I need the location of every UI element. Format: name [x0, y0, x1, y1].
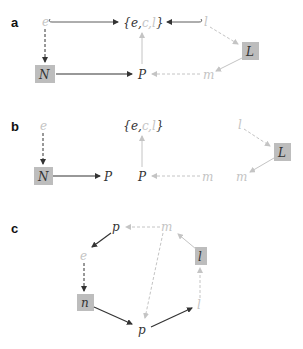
- edge-l-to-L: [244, 129, 270, 146]
- node-m: m: [161, 220, 172, 234]
- edge-p-top-to-e: [92, 233, 111, 247]
- panel-label-b: b: [11, 119, 19, 134]
- panel-c: c p m e n p l l: [11, 220, 207, 337]
- panel-a: a e { e , c , l } l L m P: [11, 15, 259, 83]
- node-n: n: [81, 296, 89, 310]
- edge-p-bottom-to-l: [151, 308, 192, 327]
- node-P: P: [137, 68, 147, 82]
- edge-m-to-p-bottom: [145, 233, 163, 318]
- diagram-canvas: a e { e , c , l } l L m P: [0, 0, 303, 349]
- node-L: L: [245, 45, 254, 59]
- node-P-mid: P: [137, 170, 147, 184]
- set-close-brace: }: [156, 16, 164, 30]
- edge-l-to-L: [210, 27, 238, 44]
- set-open-brace: {: [123, 16, 131, 30]
- node-e: e: [80, 249, 87, 263]
- node-l: l: [238, 118, 242, 132]
- node-m: m: [203, 68, 214, 82]
- node-m-right: m: [236, 170, 247, 184]
- node-l-boxed: l: [198, 250, 202, 264]
- node-e: e: [40, 119, 47, 133]
- panel-label-a: a: [11, 15, 19, 30]
- node-P-left: P: [103, 170, 113, 184]
- set-open-brace: {: [123, 119, 131, 133]
- edge-l-to-set: [167, 19, 202, 22]
- node-set: { e , c , l }: [123, 119, 164, 133]
- node-p-top: p: [112, 220, 120, 234]
- node-e: e: [42, 15, 49, 29]
- panel-label-c: c: [11, 221, 18, 236]
- edge-l-box-to-m: [178, 234, 196, 249]
- edge-L-to-m: [216, 58, 242, 71]
- node-L: L: [277, 146, 286, 160]
- set-close-brace: }: [156, 119, 164, 133]
- node-l: l: [204, 15, 208, 29]
- node-m-mid: m: [202, 170, 213, 184]
- edge-n-to-p-bottom: [94, 307, 132, 324]
- node-N: N: [38, 68, 50, 82]
- panel-b: b e N P { e , c , l } P m l L m: [11, 118, 291, 185]
- node-set: { e , c , l }: [123, 16, 164, 30]
- edge-L-to-m: [250, 158, 274, 172]
- node-p-bottom: p: [138, 323, 146, 337]
- node-N: N: [37, 170, 49, 184]
- node-l-bottom: l: [197, 298, 201, 312]
- edge-e-to-set: [49, 19, 118, 22]
